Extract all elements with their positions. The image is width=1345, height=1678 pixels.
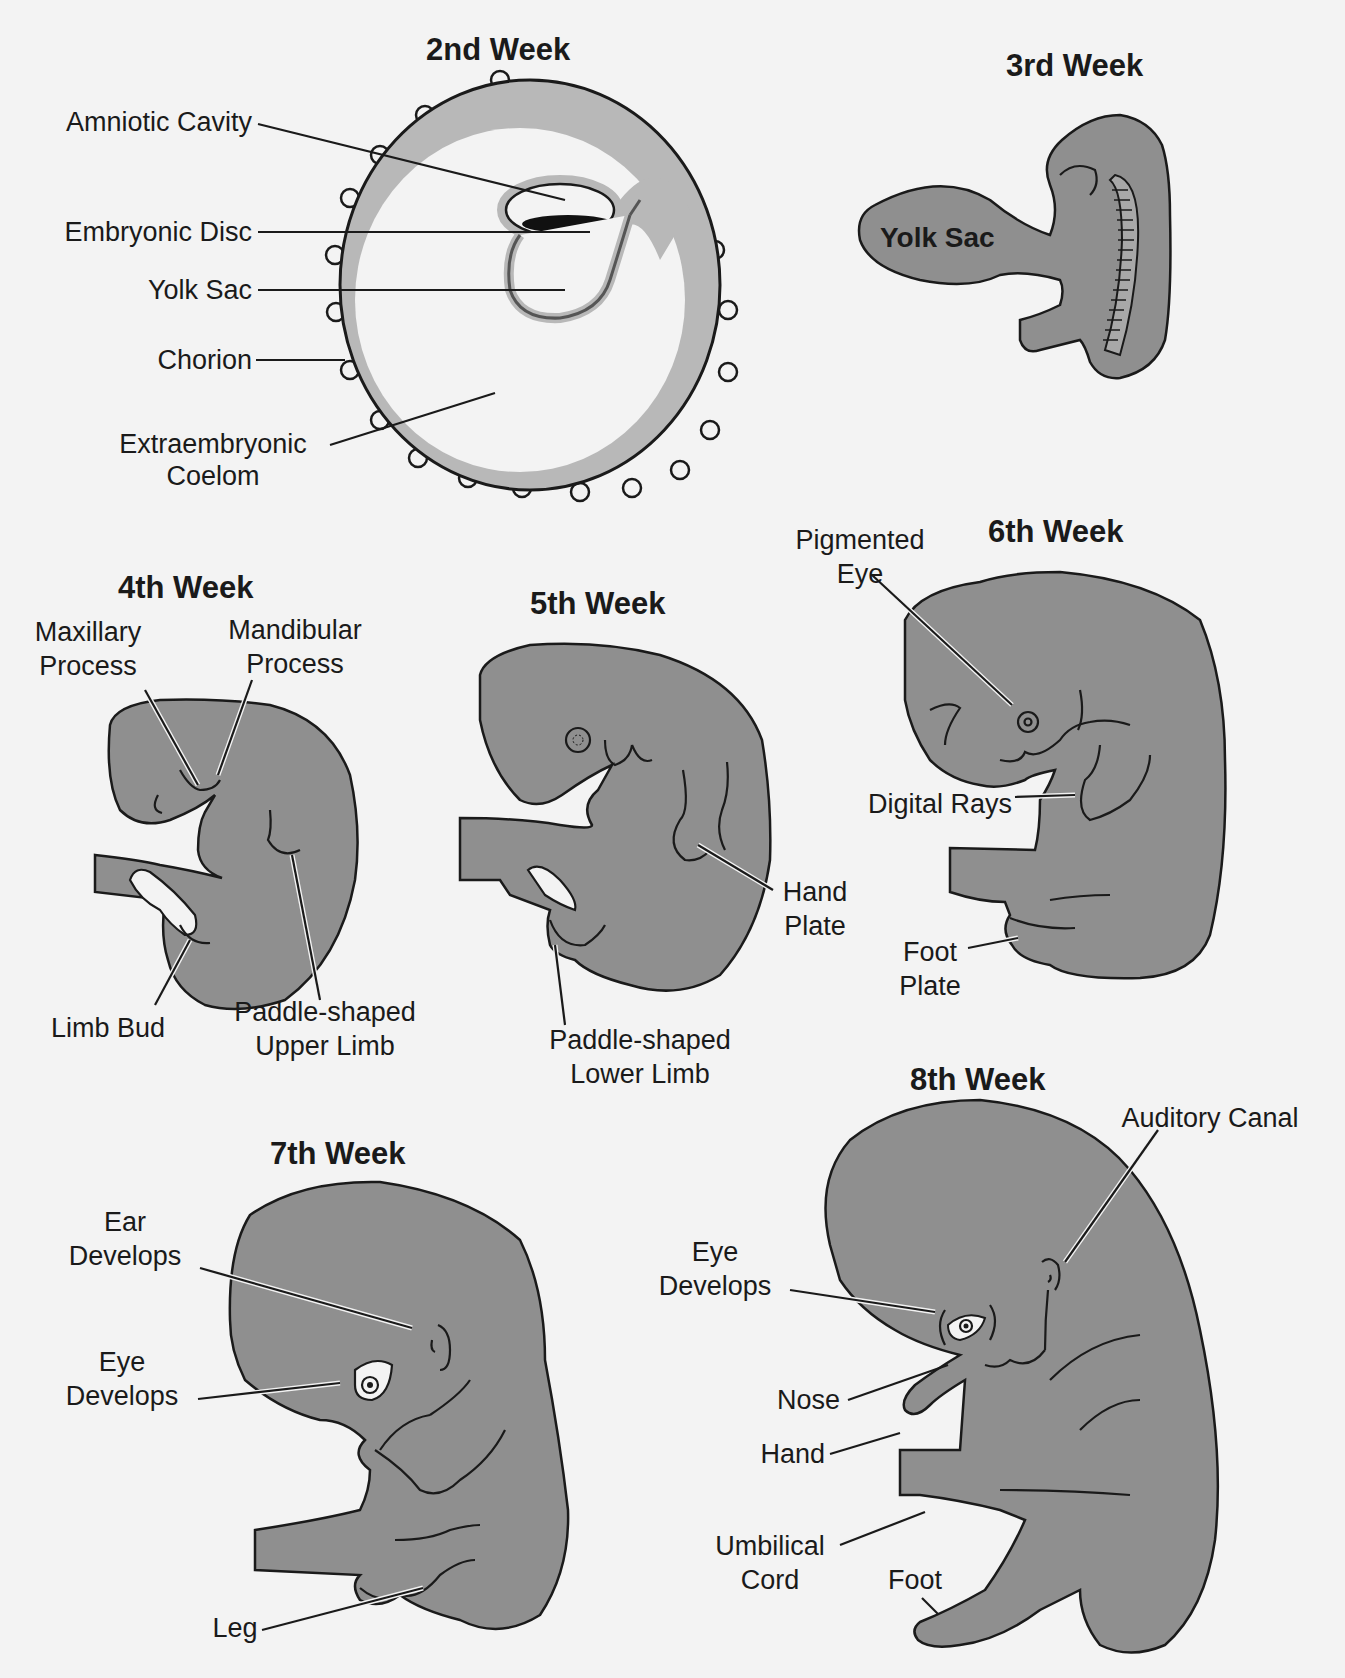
week5-title: 5th Week	[530, 586, 666, 622]
label-hand-week8: Hand	[720, 1438, 825, 1471]
label-yolk-sac: Yolk Sac	[60, 274, 252, 307]
label-cord: Cord	[700, 1564, 840, 1597]
week7-embryo	[198, 1182, 568, 1630]
label-digital-rays: Digital Rays	[820, 788, 1012, 821]
label-limb-bud: Limb Bud	[38, 1012, 178, 1045]
week4-embryo	[95, 680, 358, 1009]
label-paddle-shaped-upper: Paddle-shaped	[210, 996, 440, 1029]
week2-chorionic-sac	[256, 71, 737, 501]
label-lower-limb: Lower Limb	[525, 1058, 755, 1091]
label-extraembryonic: Extraembryonic	[98, 428, 328, 461]
label-ear: Ear	[55, 1206, 195, 1239]
label-mandibular-process: Process	[210, 648, 380, 681]
label-amniotic-cavity: Amniotic Cavity	[30, 106, 252, 139]
label-coelom: Coelom	[98, 460, 328, 493]
label-eye-develops-week8: Develops	[645, 1270, 785, 1303]
label-yolk-sac-week3: Yolk Sac	[880, 222, 995, 254]
label-umbilical: Umbilical	[700, 1530, 840, 1563]
week3-title: 3rd Week	[1006, 48, 1143, 84]
week4-title: 4th Week	[118, 570, 254, 606]
label-eye-develops-week7: Develops	[52, 1380, 192, 1413]
label-eye-week8: Eye	[645, 1236, 785, 1269]
embryo-development-illustration	[0, 0, 1345, 1678]
week8-embryo	[790, 1100, 1218, 1653]
label-pigmented: Pigmented	[775, 524, 945, 557]
label-hand-plate: Plate	[770, 910, 860, 943]
label-leg: Leg	[205, 1612, 265, 1645]
label-ear-develops: Develops	[55, 1240, 195, 1273]
label-foot-plate: Plate	[890, 970, 970, 1003]
label-hand: Hand	[770, 876, 860, 909]
label-eye-week6: Eye	[775, 558, 945, 591]
week8-title: 8th Week	[910, 1062, 1046, 1098]
label-upper-limb: Upper Limb	[210, 1030, 440, 1063]
label-eye-week7: Eye	[52, 1346, 192, 1379]
label-paddle-shaped-lower: Paddle-shaped	[525, 1024, 755, 1057]
label-auditory-canal: Auditory Canal	[1095, 1102, 1325, 1135]
label-foot-week8: Foot	[875, 1564, 955, 1597]
week5-embryo	[460, 644, 773, 1025]
week7-title: 7th Week	[270, 1136, 406, 1172]
label-nose: Nose	[740, 1384, 840, 1417]
label-foot: Foot	[890, 936, 970, 969]
label-mandibular: Mandibular	[210, 614, 380, 647]
label-chorion: Chorion	[60, 344, 252, 377]
label-maxillary: Maxillary	[18, 616, 158, 649]
week6-embryo	[872, 572, 1225, 978]
week6-title: 6th Week	[988, 514, 1124, 550]
week2-title: 2nd Week	[426, 32, 570, 68]
label-maxillary-process: Process	[18, 650, 158, 683]
label-embryonic-disc: Embryonic Disc	[20, 216, 252, 249]
